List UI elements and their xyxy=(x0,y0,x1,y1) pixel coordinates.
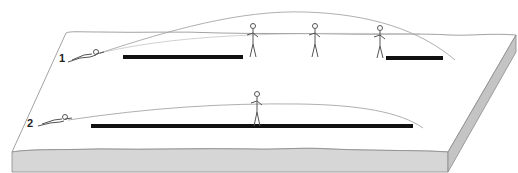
terrain-block xyxy=(12,32,516,172)
terrain-top-surface xyxy=(12,32,516,152)
scenario-2-danger-zone xyxy=(91,124,413,128)
scenario-1-label: 1 xyxy=(59,52,65,64)
terrain-front-face xyxy=(12,148,448,172)
scenario-1-danger-zone-2 xyxy=(386,56,443,60)
scenario-2-label: 2 xyxy=(27,117,33,129)
trajectory-diagram: 1 2 xyxy=(0,0,518,173)
scenario-1-danger-zone-1 xyxy=(123,55,243,59)
